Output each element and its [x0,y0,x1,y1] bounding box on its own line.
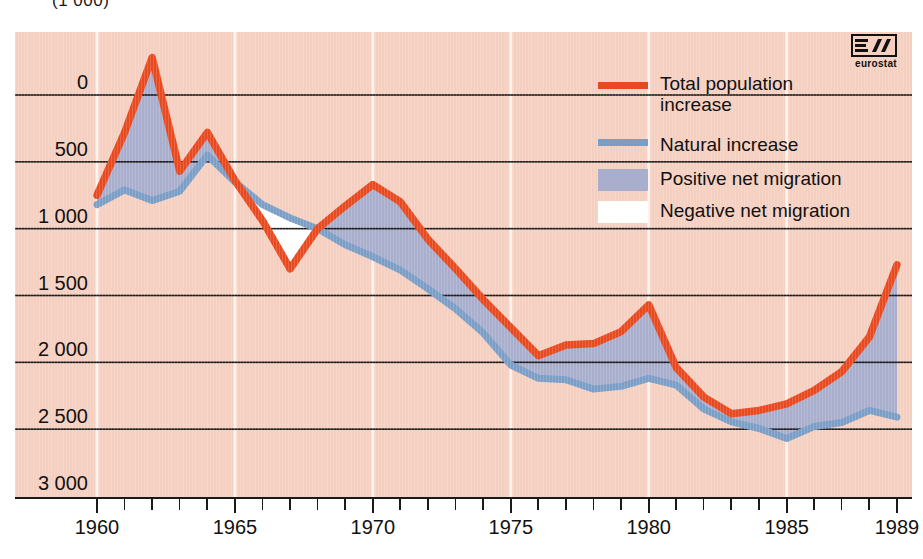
eurostat-logo-caption: eurostat [851,58,901,69]
eurostat-logo: eurostat [851,34,901,69]
y-axis-label: 1 500 [0,271,88,294]
legend-label-positive: Positive net migration [660,168,842,189]
x-axis-tick [813,499,815,510]
legend-label-natural: Natural increase [660,134,798,155]
y-axis-label: 2 500 [0,405,88,428]
x-axis-tick [317,499,319,510]
legend-label-total-line1: Total population [660,73,793,94]
x-axis-tick [620,499,622,510]
legend-item-total-population-increase[interactable]: Total population increase [598,73,908,116]
x-axis-tick [262,499,264,510]
x-axis-tick [151,499,153,510]
y-axis-label: 0 [0,71,88,94]
y-axis-label: 2 000 [0,338,88,361]
x-axis-tick [675,499,677,510]
x-axis-tick [730,499,732,510]
legend-label-total: Total population increase [660,73,793,116]
y-axis-label: 1 000 [0,204,88,227]
legend: Total population increase Natural increa… [598,73,908,229]
x-axis-tick [510,499,512,513]
x-axis-tick [537,499,539,510]
x-axis-label: 1960 [75,516,120,539]
x-axis-label: 1970 [351,516,396,539]
x-axis-tick [868,499,870,510]
x-axis-tick [399,499,401,510]
legend-swatch-natural-line [598,139,648,146]
legend-swatch-positive-area [598,169,648,191]
x-axis-tick [96,499,98,513]
legend-swatch-negative-area [598,201,648,223]
x-axis-tick [455,499,457,510]
x-axis-label: 1965 [213,516,258,539]
x-axis-tick [841,499,843,510]
x-axis-tick [344,499,346,510]
x-axis-label: 1989 [875,516,920,539]
y-axis-label: 3 000 [0,472,88,495]
x-axis-tick [703,499,705,510]
unit-label: (1 000) [52,0,109,11]
x-axis-tick [234,499,236,513]
legend-item-natural-increase[interactable]: Natural increase [598,130,908,155]
x-axis-tick [124,499,126,510]
eurostat-logo-mark [851,34,897,57]
legend-swatch-total-line [598,82,648,89]
x-axis-tick [593,499,595,510]
x-axis-tick [896,499,898,513]
x-axis-line [15,497,912,499]
x-axis-tick [786,499,788,513]
x-axis-tick [758,499,760,510]
x-axis-tick [482,499,484,510]
legend-label-total-line2: increase [660,94,793,115]
legend-item-positive-net-migration[interactable]: Positive net migration [598,167,908,191]
x-axis-tick [179,499,181,510]
chart-container: (1 000) 05001 0001 5002 0002 5003 000 19… [0,0,923,559]
x-axis-tick [206,499,208,510]
x-axis-tick [427,499,429,510]
x-axis-label: 1975 [489,516,534,539]
x-axis-label: 1980 [626,516,671,539]
x-axis-label: 1985 [764,516,809,539]
legend-item-negative-net-migration[interactable]: Negative net migration [598,199,908,223]
y-axis-label: 500 [0,137,88,160]
x-axis-tick [565,499,567,510]
legend-label-negative: Negative net migration [660,200,850,221]
eurostat-emblem-icon [854,37,896,55]
x-axis-tick [289,499,291,510]
x-axis-tick [372,499,374,513]
x-axis-tick [648,499,650,513]
